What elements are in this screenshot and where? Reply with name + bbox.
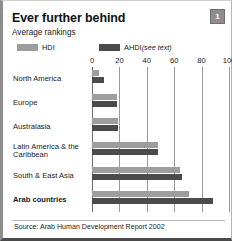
legend-item-ahdi: AHDI(see text) bbox=[99, 43, 172, 52]
category-label: North America bbox=[13, 75, 87, 84]
bar-ahdi bbox=[92, 101, 117, 107]
chart-legend: HDI AHDI(see text) bbox=[14, 43, 227, 53]
bar-hdi bbox=[92, 191, 189, 197]
bar-hdi bbox=[92, 94, 117, 100]
bar-hdi bbox=[92, 142, 158, 148]
chart-source: Source: Arab Human Development Report 20… bbox=[14, 223, 165, 232]
bar-hdi bbox=[92, 70, 99, 76]
x-tick-40: 40 bbox=[143, 56, 151, 65]
figure-inner: 1 Ever further behind Average rankings H… bbox=[12, 7, 225, 234]
chart-row: Australasia bbox=[12, 115, 225, 139]
legend-swatch-hdi bbox=[17, 44, 38, 51]
chart-row: Latin America & the Caribbean bbox=[12, 139, 225, 163]
footer-rule bbox=[12, 220, 225, 221]
bar-group bbox=[92, 115, 225, 139]
bar-group bbox=[92, 164, 225, 188]
bar-ahdi bbox=[92, 174, 182, 180]
category-label: Latin America & the Caribbean bbox=[13, 143, 87, 160]
chart-row: Arab countries bbox=[12, 188, 225, 212]
bar-hdi bbox=[92, 167, 180, 173]
chart-figure: 1 Ever further behind Average rankings H… bbox=[0, 0, 232, 241]
bar-group bbox=[92, 91, 225, 115]
x-tick-20: 20 bbox=[115, 56, 123, 65]
bar-group bbox=[92, 139, 225, 163]
x-tick-60: 60 bbox=[170, 56, 178, 65]
x-tick-0: 0 bbox=[90, 56, 94, 65]
category-label: South & East Asia bbox=[13, 171, 87, 180]
gridline-100 bbox=[229, 67, 230, 212]
bar-ahdi bbox=[92, 198, 213, 204]
x-tick-100: 100 bbox=[223, 56, 232, 65]
category-label: Australasia bbox=[13, 123, 87, 132]
x-axis-ticks: 020406080100 bbox=[12, 56, 225, 67]
bar-ahdi bbox=[92, 125, 118, 131]
chart-row: North America bbox=[12, 67, 225, 91]
chart-rows: North AmericaEuropeAustralasiaLatin Amer… bbox=[12, 67, 225, 212]
legend-label-ahdi: AHDI bbox=[124, 43, 142, 52]
category-label: Europe bbox=[13, 99, 87, 108]
chart-row: Europe bbox=[12, 91, 225, 115]
bar-ahdi bbox=[92, 77, 104, 83]
category-label: Arab countries bbox=[13, 196, 87, 205]
legend-label-hdi: HDI bbox=[42, 43, 55, 52]
chart-title: Ever further behind bbox=[12, 11, 225, 25]
chart-subtitle: Average rankings bbox=[12, 28, 225, 38]
bar-group bbox=[92, 188, 225, 212]
legend-swatch-ahdi bbox=[99, 44, 120, 51]
bar-ahdi bbox=[92, 149, 158, 155]
figure-number-badge: 1 bbox=[210, 9, 225, 24]
chart-plot: 020406080100 North AmericaEuropeAustrala… bbox=[12, 56, 225, 212]
legend-item-hdi: HDI bbox=[17, 43, 55, 52]
chart-row: South & East Asia bbox=[12, 164, 225, 188]
x-tick-80: 80 bbox=[197, 56, 205, 65]
legend-note-ahdi: (see text) bbox=[142, 43, 172, 52]
bar-hdi bbox=[92, 118, 118, 124]
bar-group bbox=[92, 67, 225, 91]
